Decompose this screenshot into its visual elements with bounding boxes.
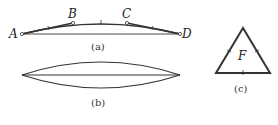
caption-a: (a) bbox=[91, 41, 105, 52]
lens-upper-arc bbox=[22, 62, 180, 75]
figure-c: F (c) bbox=[216, 28, 270, 94]
label-a: A bbox=[8, 27, 18, 41]
segment-ab bbox=[22, 23, 73, 34]
label-d: D bbox=[181, 27, 192, 41]
figure-a: A B C D (a) bbox=[8, 7, 192, 52]
point-c bbox=[125, 21, 128, 24]
tick-cd bbox=[152, 26, 153, 30]
caption-c: (c) bbox=[234, 83, 248, 94]
point-b bbox=[71, 21, 74, 24]
label-f: F bbox=[237, 49, 247, 63]
tick-ab bbox=[48, 26, 49, 30]
label-b: B bbox=[67, 7, 77, 21]
label-c: C bbox=[122, 7, 131, 21]
figure-b: (b) bbox=[22, 62, 180, 108]
caption-b: (b) bbox=[91, 97, 105, 108]
diagram-canvas: A B C D (a) (b) F (c) bbox=[0, 0, 278, 125]
point-a bbox=[20, 32, 23, 35]
lens-lower-arc bbox=[22, 75, 180, 88]
segment-cd bbox=[127, 23, 180, 34]
